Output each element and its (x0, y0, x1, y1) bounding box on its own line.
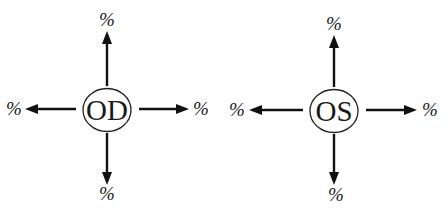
percent-label-right-od: % (193, 98, 209, 119)
percent-label-up-od: % (99, 9, 115, 30)
eye-group-os: % % % % OS (229, 13, 438, 205)
arrow-left-od (25, 104, 76, 114)
percent-label-left-os: % (229, 99, 245, 120)
arrow-up-od (102, 31, 112, 86)
arrow-down-od (102, 133, 112, 185)
percent-label-down-os: % (328, 184, 344, 205)
arrowhead-left-icon (25, 104, 38, 114)
arrowhead-right-icon (404, 105, 417, 115)
arrowhead-up-icon (329, 35, 339, 48)
percent-label-left-od: % (6, 98, 22, 119)
eye-deviation-diagram: % % % % OD (0, 0, 446, 217)
percent-label-down-od: % (99, 183, 115, 204)
arrow-up-os (329, 35, 339, 87)
eye-label-od: OD (86, 94, 128, 126)
arrow-right-os (366, 105, 417, 115)
eye-group-od: % % % % OD (6, 9, 209, 204)
percent-label-right-os: % (422, 99, 438, 120)
arrowhead-right-icon (176, 104, 189, 114)
arrowhead-left-icon (249, 105, 262, 115)
arrow-down-os (329, 134, 339, 185)
percent-label-up-os: % (326, 13, 342, 34)
arrow-right-od (139, 104, 189, 114)
diagram-canvas: % % % % OD (0, 0, 446, 217)
eye-label-os: OS (315, 95, 352, 127)
arrowhead-up-icon (102, 31, 112, 44)
arrow-left-os (249, 105, 303, 115)
